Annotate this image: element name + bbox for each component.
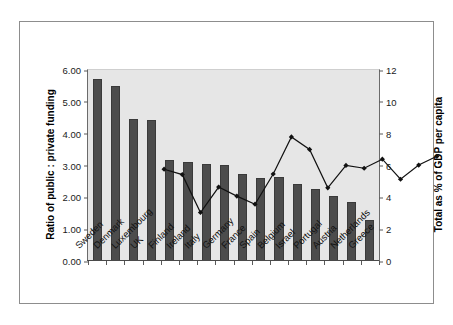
x-axis-tick (143, 261, 144, 265)
x-axis-tick (106, 261, 107, 265)
line-path (164, 137, 437, 213)
line-marker (180, 172, 185, 177)
line-marker (161, 167, 166, 172)
y-axis-right-tick-label: 12 (379, 65, 416, 76)
y-axis-left-tick-label: 4.00 (45, 128, 88, 139)
line-marker (362, 166, 367, 171)
line-marker (252, 202, 257, 207)
line-marker (434, 154, 439, 159)
y-axis-left-tick-label: 6.00 (45, 65, 88, 76)
y-axis-right-tick-label: 10 (379, 96, 416, 107)
line-series (155, 117, 446, 308)
line-marker (234, 194, 239, 199)
y-axis-left-tick-label: 2.00 (45, 192, 88, 203)
x-axis-tick (88, 261, 89, 265)
y-axis-left-tick-label: 3.00 (45, 160, 88, 171)
chart-figure: Ratio of public : private funding Total … (0, 0, 453, 325)
x-axis-line (87, 260, 379, 261)
chart-frame: Ratio of public : private funding Total … (19, 21, 434, 304)
x-axis-tick (124, 261, 125, 265)
y-axis-left-tick-label: 0.00 (45, 256, 88, 267)
line-marker (271, 171, 276, 176)
y-axis-left-tick-label: 5.00 (45, 96, 88, 107)
